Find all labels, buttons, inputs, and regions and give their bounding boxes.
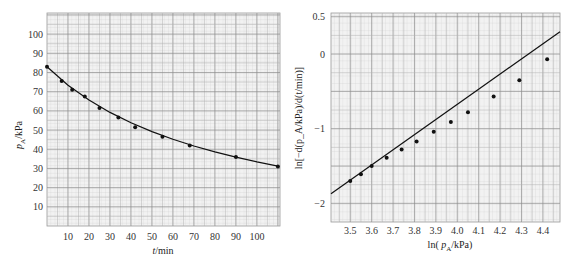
data-point [70,88,74,92]
x-tick-label: 50 [147,231,157,242]
right-chart-log-rate-vs-log-pressure: 3.53.63.73.83.94.04.14.24.34.40.50−1−2 l… [293,11,560,253]
x-tick-label: 3.5 [344,225,357,236]
x-tick-label: 10 [63,231,73,242]
data-point [116,116,120,120]
x-tick-label: 4.1 [472,225,485,236]
x-tick-label: 80 [210,231,220,242]
y-tick-label: 100 [28,29,43,40]
data-point [385,156,389,160]
x-tick-label: 90 [231,231,241,242]
data-point [276,165,280,169]
y-tick-label: 20 [33,182,43,193]
data-point [449,120,453,124]
y-tick-label: 30 [33,163,43,174]
y-tick-label: 0.5 [313,11,326,22]
left-x-axis-label: t/min [152,245,173,256]
x-tick-label: 4.3 [515,225,528,236]
x-tick-label: 60 [168,231,178,242]
data-point [348,179,352,183]
x-tick-label: 20 [84,231,94,242]
x-tick-label: 40 [126,231,136,242]
y-tick-label: 10 [33,201,43,212]
x-tick-label: 3.9 [430,225,443,236]
y-tick-label: −1 [314,123,325,134]
data-point [83,94,87,98]
x-tick-label: 4.2 [494,225,507,236]
data-point [97,106,101,110]
data-point [45,65,49,69]
data-point [466,110,470,114]
y-tick-label: 50 [33,125,43,136]
y-tick-label: 80 [33,67,43,78]
data-point [188,143,192,147]
x-tick-label: 3.6 [365,225,378,236]
x-tick-label: 4.0 [451,225,464,236]
data-point [60,79,64,83]
x-tick-label: 3.7 [387,225,400,236]
figure: 1020304050607080901001020304050607080901… [0,0,573,263]
data-point [432,130,436,134]
x-tick-label: 4.4 [537,225,550,236]
data-point [415,139,419,143]
data-point [133,125,137,129]
right-y-axis-label: ln[−d(p_A/kPa)/d(t/min)] [293,67,305,169]
y-tick-label: 70 [33,86,43,97]
data-point [492,95,496,99]
y-tick-label: 60 [33,105,43,116]
data-point [160,135,164,139]
left-chart-pressure-vs-time: 1020304050607080901001020304050607080901… [13,13,280,256]
data-point [517,78,521,82]
data-point [370,164,374,168]
y-tick-label: −2 [314,198,325,209]
data-point [545,57,549,61]
x-tick-label: 30 [105,231,115,242]
data-point [400,148,404,152]
x-tick-label: 70 [189,231,199,242]
data-point [234,155,238,159]
left-y-axis-label: pA/kPa [13,121,27,150]
y-tick-label: 90 [33,48,43,59]
x-tick-label: 3.8 [408,225,421,236]
data-point [359,172,363,176]
x-tick-label: 100 [249,231,264,242]
y-tick-label: 0 [320,49,325,60]
right-x-axis-label: ln( pA/kPa) [428,239,473,253]
y-tick-label: 40 [33,144,43,155]
